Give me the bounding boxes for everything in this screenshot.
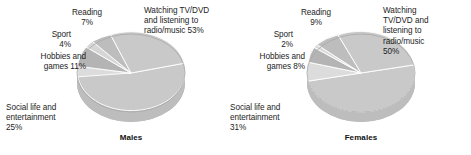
chart-caption-males: Males bbox=[91, 133, 171, 142]
pie-chart-males: Hobbies and games 11% Sport 4% Reading 7… bbox=[0, 0, 235, 155]
slice-label-tv-males: Watching TV/DVD and listening to radio/m… bbox=[144, 6, 239, 37]
slice-label-reading-males: Reading 7% bbox=[55, 8, 119, 28]
slice-label-sport-males: Sport 4% bbox=[2, 30, 71, 50]
slice-label-sport-females: Sport 2% bbox=[227, 30, 293, 50]
slice-label-tv-females: Watching TV/DVD and listening to radio/m… bbox=[383, 6, 465, 57]
pie-chart-females: Hobbies and games 8% Sport 2% Reading 9%… bbox=[235, 0, 470, 155]
slice-label-hobbies-males: Hobbies and games 11% bbox=[2, 52, 86, 72]
slice-label-social-females: Social life and entertainment 31% bbox=[230, 103, 316, 134]
slice-label-social-males: Social life and entertainment 25% bbox=[6, 103, 92, 134]
leisure-activities-figure: Hobbies and games 11% Sport 4% Reading 7… bbox=[0, 0, 471, 155]
chart-caption-females: Females bbox=[321, 133, 401, 142]
slice-label-hobbies-females: Hobbies and games 8% bbox=[227, 52, 305, 72]
slice-label-reading-females: Reading 9% bbox=[285, 8, 347, 28]
